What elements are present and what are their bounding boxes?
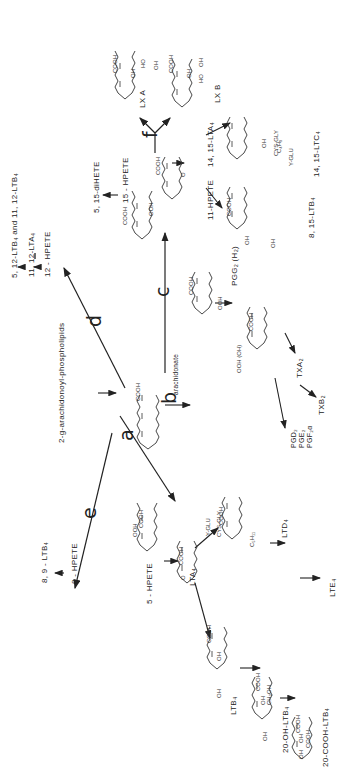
txa2-label: TXA₂ [295, 358, 304, 378]
group-oh-label: OH [216, 689, 222, 698]
ltc4-y-glu: Y-GLU [288, 148, 294, 166]
11-12-lta4-label: 11, 12-LTA₄ [27, 233, 36, 277]
group-ooh-label: OOH [217, 296, 223, 310]
group-o-label: O [180, 575, 186, 580]
step-d-label: d [83, 315, 105, 327]
ltc4-c5h11-sub: C₅H₁₁ [249, 532, 255, 547]
20-oh-ltb4-label: 20-OH-LTB₄ [281, 706, 290, 753]
group-oh-label: OH [298, 750, 304, 759]
group-cooh-label: COOH [255, 673, 261, 691]
arrow-step-d [64, 268, 125, 388]
pgg2-ooh: OOH (OH) [236, 345, 242, 373]
step-c-label: c [151, 286, 173, 297]
group-cooh-label: COOH [206, 625, 212, 643]
20-cooh-ltb4-label: 20-COOH-LTB₄ [321, 708, 330, 767]
step-b-label: b [158, 392, 180, 404]
5-12-ltb4-label: 5, 12-LTB₄ and 11, 12-LTB₄ [10, 173, 19, 278]
group-oh-label: OH [262, 732, 268, 741]
ltc4-y-glu-sub: Y-GLU [205, 518, 211, 536]
group-o-label: O [180, 172, 186, 177]
15-hpete-label: 15 - HPETE [121, 157, 130, 203]
lte4-label: LTE₄ [328, 578, 337, 597]
group-cooh-label: COOH [226, 198, 232, 216]
group-oh-label: OH [270, 239, 276, 248]
lxb-label: LX B [213, 84, 222, 103]
group-cooh-label: COOH [168, 55, 174, 73]
group-cooh-label: COOH [135, 383, 141, 401]
source-label: 2-g-arachidonoyl-phospholipids [57, 323, 66, 443]
prostaglandin-list: PGD₂ PGE₂ PGF₂α [290, 425, 314, 448]
lxa-label: LX A [138, 90, 147, 108]
group-cooh-label: COOH [305, 730, 311, 748]
step-a-label: a [115, 429, 137, 441]
group-oh-label: OH [198, 58, 204, 67]
arrow-txa2-txb2 [300, 385, 316, 397]
group-ooh-label: OOH [132, 523, 138, 537]
txb2-label: TXB₂ [317, 395, 326, 415]
arachidonate-structure [137, 395, 159, 449]
8-hpete-label: 8 - HPETE [70, 543, 79, 584]
group-cooh-label: COOH [188, 277, 194, 295]
5-hpete-label: 5 - HPETE [145, 563, 154, 604]
group-cooh-label: COOH [122, 207, 128, 225]
12-hpete-label: 12 - HPETE [43, 231, 52, 277]
ltb4-label: LTB₄ [229, 696, 238, 715]
8-15-ltb4-label: 8, 15-LTB₄ [307, 197, 316, 238]
group-oh-label: OH [153, 61, 159, 70]
group-oh-label: OH [186, 69, 192, 78]
pgf2a-label: PGF₂α [306, 425, 314, 448]
group-oh-label: OH [130, 69, 136, 78]
arachidonate-label: arachidonate [172, 354, 179, 395]
ltc4-cys-gly: CYS-GLY [273, 130, 279, 156]
ltc4-structure [222, 497, 242, 539]
pgd2-label: PGD₂ [290, 425, 298, 448]
group-cooh-label: COOH [178, 547, 184, 565]
14-15-ltc4-label: 14, 15-LTC₄ [312, 131, 321, 177]
group-ooh-label: OOH [148, 202, 154, 216]
ltd4-label: LTD₄ [280, 519, 289, 538]
group-cooh-label: COOH [112, 55, 118, 73]
step-f-label: f [139, 131, 161, 138]
11-hpete-label: 11-HPETE [206, 180, 215, 220]
arrow-pgg2-txa2 [285, 333, 295, 353]
step-e-label: e [78, 507, 100, 519]
11-hpete-structure [192, 272, 212, 314]
pathway-diagram: 2-g-arachidonoyl-phospholipids arachidon… [0, 0, 348, 773]
group-cooh-label: COOH [155, 157, 161, 175]
pge2-label: PGE₂ [298, 425, 306, 448]
pgg2-label: PGG₂ (H₂) [230, 246, 239, 286]
group-cooh-label: COOH [295, 715, 301, 733]
5-15-dihete-label: 5, 15-diHETE [92, 161, 101, 213]
ltc4-oh: OH [261, 139, 267, 148]
group-ho-label: HO [140, 59, 146, 68]
group-cooh-label: COOH [138, 510, 144, 528]
group-oh-label: OH [216, 652, 222, 661]
group-oh-label: OH [244, 236, 250, 245]
group-ch2oh-label: CH₂OH [266, 685, 272, 705]
arrow-pgg2-pgs [275, 378, 285, 428]
group-oh-label: OH [298, 734, 304, 743]
14-15-lta4-label: 14, 15-LTA₄ [206, 122, 215, 167]
8-9-ltb4-label: 8, 9 - LTB₄ [40, 542, 49, 583]
group-ho-label: HO [198, 74, 204, 83]
group-cooh-label: COOH [218, 507, 224, 525]
group-cooh-label: COOH [248, 313, 254, 331]
lta4-label: LTA₄ [188, 568, 197, 586]
lxb-structure [172, 59, 192, 107]
